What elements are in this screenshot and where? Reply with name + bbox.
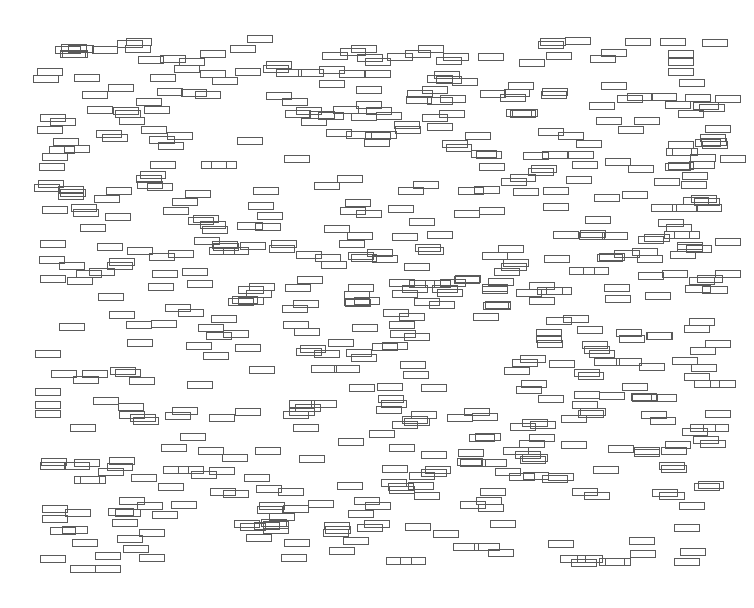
- rectangle-box: [126, 321, 152, 329]
- rectangle-box: [339, 70, 365, 78]
- rectangle-box: [163, 466, 189, 474]
- rectangle-box: [421, 469, 447, 477]
- rectangle-box: [137, 502, 163, 510]
- rectangle-box: [694, 380, 720, 388]
- rectangle-box: [238, 297, 264, 305]
- rectangle-box: [565, 37, 591, 45]
- rectangle-box: [622, 191, 648, 199]
- rectangle-box: [158, 142, 184, 150]
- rectangle-box: [681, 181, 707, 189]
- rectangle-box: [211, 315, 237, 323]
- rectangle-box: [454, 210, 480, 218]
- rectangle-box: [474, 543, 500, 551]
- rectangle-box: [617, 95, 643, 103]
- rectangle-box: [167, 132, 193, 140]
- rectangle-box: [689, 277, 715, 285]
- rectangle-box: [674, 231, 700, 239]
- rectangle-box: [150, 74, 176, 82]
- rectangle-box: [329, 547, 355, 555]
- rectangle-box: [601, 82, 627, 90]
- rectangle-box: [548, 540, 574, 548]
- rectangle-box: [152, 270, 178, 278]
- rectangle-box: [668, 50, 694, 58]
- rectangle-box: [654, 178, 680, 186]
- rectangle-box: [616, 358, 642, 366]
- rectangle-box: [418, 45, 444, 53]
- rectangle-box: [343, 537, 369, 545]
- rectangle-box: [198, 447, 224, 455]
- rectangle-box: [348, 510, 374, 518]
- rectangle-box: [504, 367, 530, 375]
- rectangle-box: [631, 393, 657, 401]
- rectangle-box: [115, 509, 141, 517]
- rectangle-box: [136, 98, 162, 106]
- rectangle-box: [520, 355, 546, 363]
- rectangle-box: [495, 468, 521, 476]
- rectangle-box: [439, 110, 465, 118]
- rectangle-box: [662, 270, 688, 278]
- rectangle-box: [299, 455, 325, 463]
- rectangle-box: [248, 202, 274, 210]
- rectangle-box: [421, 384, 447, 392]
- rectangle-box: [65, 509, 91, 517]
- rectangle-box: [58, 186, 84, 194]
- rectangle-box: [661, 447, 687, 455]
- rectangle-box: [323, 529, 349, 537]
- rectangle-box: [50, 118, 76, 126]
- rectangle-box: [701, 138, 727, 146]
- rectangle-box: [381, 400, 407, 408]
- rectangle-box: [144, 106, 170, 114]
- rectangle-box: [235, 68, 261, 76]
- rectangle-box: [35, 401, 61, 409]
- rectangle-box: [59, 323, 85, 331]
- rectangle-box: [436, 57, 462, 65]
- rectangle-box: [269, 513, 295, 521]
- rectangle-box: [604, 284, 630, 292]
- rectangle-box: [703, 424, 729, 432]
- rectangle-box: [334, 365, 360, 373]
- rectangle-box: [115, 369, 141, 377]
- rectangle-box: [403, 371, 429, 379]
- rectangle-box: [543, 187, 569, 195]
- rectangle-box: [118, 403, 144, 411]
- rectangle-box: [720, 155, 746, 163]
- rectangle-box: [311, 365, 337, 373]
- rectangle-box: [679, 79, 705, 87]
- rectangle-box: [39, 256, 65, 264]
- rectangle-box: [561, 441, 587, 449]
- rectangle-box: [348, 252, 374, 260]
- rectangle-box: [187, 381, 213, 389]
- rectangle-box: [546, 52, 572, 60]
- rectangle-box: [442, 140, 468, 148]
- rectangle-box: [404, 333, 430, 341]
- rectangle-box: [651, 93, 677, 101]
- rectangle-box: [151, 320, 177, 328]
- rectangle-box: [40, 275, 66, 283]
- rectangle-box: [257, 506, 283, 514]
- rectangle-box: [112, 519, 138, 527]
- rectangle-box: [319, 80, 345, 88]
- rectangle-box: [296, 251, 322, 259]
- rectangle-box: [200, 50, 226, 58]
- rectangle-box: [179, 58, 205, 66]
- rectangle-box: [625, 38, 651, 46]
- rectangle-box: [247, 35, 273, 43]
- rectangle-box: [33, 75, 59, 83]
- rectangle-box: [383, 309, 409, 317]
- rectangle-box: [185, 190, 211, 198]
- rectangle-box: [437, 289, 463, 297]
- rectangle-box: [389, 279, 415, 287]
- rectangle-box: [645, 292, 671, 300]
- rectangle-box: [211, 161, 237, 169]
- rectangle-box: [365, 502, 391, 510]
- rectangle-box: [589, 102, 615, 110]
- rectangle-box: [418, 247, 444, 255]
- rectangle-box: [668, 58, 694, 66]
- rectangle-box: [574, 391, 600, 399]
- rectangle-box: [352, 324, 378, 332]
- rectangle-box: [561, 415, 587, 423]
- rectangle-box: [504, 89, 530, 97]
- rectangle-box: [165, 412, 191, 420]
- rectangle-box: [622, 383, 648, 391]
- rectangle-box: [129, 377, 155, 385]
